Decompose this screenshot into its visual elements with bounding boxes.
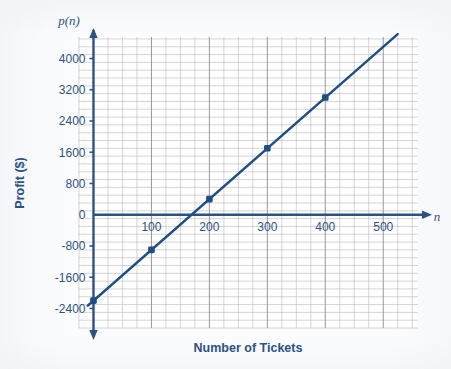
- y-tick-label: 4000: [59, 52, 86, 66]
- y-axis-tick-labels: -2400-1600-80008001600240032004000: [55, 52, 86, 316]
- x-axis-title: Number of Tickets: [194, 341, 303, 355]
- y-tick-label: -800: [61, 239, 85, 253]
- y-tick-label: 800: [65, 177, 85, 191]
- y-tick-label: 3200: [59, 83, 86, 97]
- data-point-marker: [90, 297, 97, 304]
- x-tick-label: 300: [257, 220, 277, 234]
- profit-line-chart: -2400-1600-80008001600240032004000 10020…: [0, 0, 451, 369]
- y-tick-label: -1600: [55, 271, 86, 285]
- chart-figure: -2400-1600-80008001600240032004000 10020…: [0, 0, 451, 369]
- x-axis-arrowhead: [422, 211, 432, 219]
- plot-area-background: [79, 37, 418, 328]
- y-axis-variable-name: p(n): [57, 13, 80, 28]
- y-axis-title: Profit ($): [13, 157, 27, 208]
- x-tick-label: 400: [315, 220, 335, 234]
- x-tick-label: 500: [373, 220, 393, 234]
- y-tick-label: 1600: [59, 146, 86, 160]
- y-tick-label: 2400: [59, 114, 86, 128]
- x-axis-variable-name: n: [434, 209, 441, 224]
- y-axis-arrowhead-up: [89, 28, 97, 38]
- y-tick-label: -2400: [55, 302, 86, 316]
- data-point-marker: [148, 247, 155, 254]
- x-tick-label: 100: [141, 220, 161, 234]
- data-point-marker: [264, 145, 271, 152]
- y-axis-arrowhead-down: [89, 330, 97, 340]
- y-tick-label: 0: [79, 208, 86, 222]
- data-point-marker: [322, 94, 329, 101]
- x-tick-label: 200: [199, 220, 219, 234]
- data-point-marker: [206, 196, 213, 203]
